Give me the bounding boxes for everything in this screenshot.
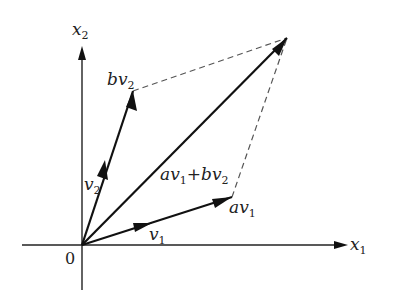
vector-bv2	[82, 91, 137, 245]
bv2-label: bv2	[107, 69, 135, 92]
x2-axis-label: x2	[72, 19, 89, 42]
av1-label: av1	[229, 197, 256, 220]
v1-label: v1	[149, 224, 166, 247]
v2-label: v2	[84, 174, 101, 197]
vector-diagram: x2 x1 0 bv2 v2 v1 av1 av1+bv2	[0, 0, 396, 304]
x1-axis	[22, 241, 348, 249]
sum-label: av1+bv2	[160, 164, 228, 187]
x2-axis	[78, 46, 86, 290]
x1-axis-label: x1	[350, 234, 367, 257]
vector-v2-arrowhead	[97, 160, 108, 180]
origin-label: 0	[65, 249, 75, 268]
